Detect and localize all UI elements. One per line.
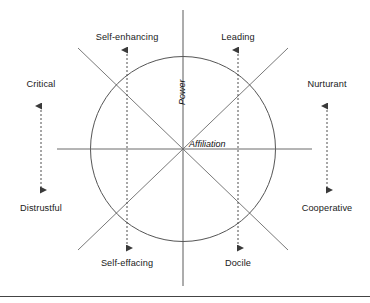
label-leading: Leading xyxy=(221,33,254,42)
label-power-axis: Power xyxy=(178,79,187,105)
label-self-enhancing: Self-enhancing xyxy=(96,33,159,42)
label-docile: Docile xyxy=(225,259,251,268)
circumplex-figure: Self-enhancing Leading Critical Nurturan… xyxy=(0,0,370,303)
label-affiliation-axis: Affiliation xyxy=(189,140,226,149)
label-cooperative: Cooperative xyxy=(302,204,353,213)
label-self-effacing: Self-effacing xyxy=(101,259,153,268)
label-nurturant: Nurturant xyxy=(307,80,346,89)
label-critical: Critical xyxy=(27,80,56,89)
label-distrustful: Distrustful xyxy=(20,204,62,213)
circumplex-diagram-svg xyxy=(0,0,370,303)
